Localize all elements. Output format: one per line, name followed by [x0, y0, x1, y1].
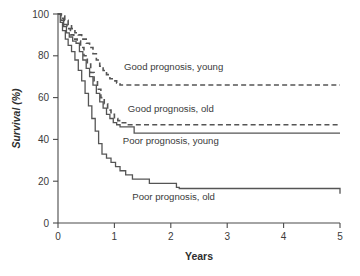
curve-label: Poor prognosis, young [123, 135, 219, 146]
curve-good-prognosis-young [58, 14, 340, 85]
x-axis-ticks: 012345 [55, 223, 343, 242]
x-tick-label: 3 [224, 231, 230, 242]
y-tick-label: 60 [38, 92, 50, 103]
curve-label: Good prognosis, young [124, 61, 223, 72]
x-tick-label: 1 [112, 231, 118, 242]
y-axis-title: Survival (%) [10, 88, 22, 149]
y-axis-ticks: 020406080100 [32, 9, 58, 229]
x-axis-title: Years [185, 250, 213, 262]
y-tick-label: 40 [38, 134, 50, 145]
curve-annotations: Good prognosis, youngGood prognosis, old… [123, 61, 223, 202]
x-tick-label: 4 [281, 231, 287, 242]
x-tick-label: 5 [337, 231, 343, 242]
y-tick-label: 20 [38, 176, 50, 187]
x-tick-label: 2 [168, 231, 174, 242]
chart-svg: 020406080100 012345 Good prognosis, youn… [0, 0, 360, 276]
y-tick-label: 80 [38, 50, 50, 61]
y-tick-label: 0 [43, 218, 49, 229]
x-tick-label: 0 [55, 231, 61, 242]
curve-poor-prognosis-young [58, 14, 340, 133]
y-tick-label: 100 [32, 9, 49, 20]
curve-label: Poor prognosis, old [132, 191, 215, 202]
curve-label: Good prognosis, old [128, 103, 214, 114]
survival-chart: 020406080100 012345 Good prognosis, youn… [0, 0, 360, 276]
